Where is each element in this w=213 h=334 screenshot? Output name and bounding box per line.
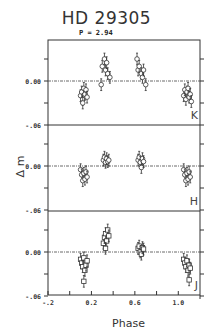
data-point-circle [108, 75, 113, 80]
data-point-circle [104, 60, 109, 65]
data-point-square [141, 247, 145, 251]
data-point-circle [141, 159, 146, 164]
data-point-circle [99, 82, 104, 87]
x-tick-label: 1.0 [172, 299, 184, 307]
data-point-square [187, 278, 191, 282]
y-tick-label: 0.00 [25, 163, 41, 171]
data-point-square [103, 246, 107, 250]
data-point-square [107, 234, 111, 238]
y-tick-label: -.06 [25, 122, 41, 130]
data-point-square [188, 266, 192, 270]
data-point-square [82, 279, 86, 283]
data-point-circle [80, 101, 85, 106]
plot-frame [48, 40, 200, 295]
y-tick-label: 0.00 [25, 78, 41, 86]
band-label-k: K [191, 109, 199, 122]
data-point-circle [107, 158, 112, 163]
x-tick-label: 0.6 [129, 299, 141, 307]
data-point-square [139, 252, 143, 256]
data-point-circle [189, 99, 194, 104]
band-label-h: H [190, 195, 198, 208]
band-label-j: J [194, 279, 198, 292]
data-point-circle [188, 175, 193, 180]
data-point-circle [85, 95, 90, 100]
y-tick-label: -.06 [25, 293, 41, 301]
data-point-circle [187, 170, 192, 175]
data-point-square [83, 268, 87, 272]
x-tick-label: 0.2 [86, 299, 98, 307]
y-tick-label: 0.00 [25, 249, 41, 257]
data-point-circle [84, 170, 89, 175]
x-tick-label: -.2 [42, 299, 54, 307]
data-point-circle [141, 68, 146, 73]
data-point-circle [143, 82, 148, 87]
data-point-square [85, 259, 89, 263]
data-point-circle [85, 175, 90, 180]
light-curve-plot: 0.00-.06K0.00-.06H0.00-.06J-.20.20.61.0 [0, 0, 213, 334]
y-tick-label: -.06 [25, 207, 41, 215]
